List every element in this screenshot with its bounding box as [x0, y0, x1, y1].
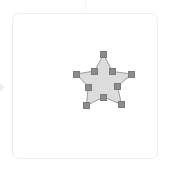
caret-left-icon[interactable]	[0, 80, 5, 94]
handle-tip-left[interactable]	[73, 71, 80, 78]
handle-tip-bottom-left[interactable]	[83, 102, 90, 109]
handle-tip-bottom-right[interactable]	[118, 101, 125, 108]
handle-inner-left[interactable]	[85, 84, 92, 91]
handle-tip-right[interactable]	[128, 71, 135, 78]
handle-inner-upper-left[interactable]	[91, 68, 98, 75]
handle-inner-bottom[interactable]	[100, 94, 107, 101]
handle-tip-top[interactable]	[100, 51, 107, 58]
handle-inner-right[interactable]	[114, 83, 121, 90]
canvas-stage	[0, 0, 170, 171]
tick-mark-icon	[85, 1, 86, 10]
handle-inner-upper-right[interactable]	[109, 68, 116, 75]
